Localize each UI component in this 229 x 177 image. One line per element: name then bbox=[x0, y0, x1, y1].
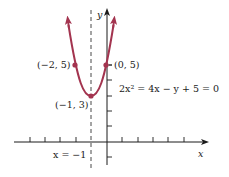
x-axis-label: x bbox=[198, 148, 204, 159]
y-axis-ticks bbox=[107, 65, 112, 157]
point-0-5-label: (0, 5) bbox=[114, 59, 140, 70]
point-neg2-5-label: (−2, 5) bbox=[37, 59, 71, 70]
y-axis-label: y bbox=[96, 9, 103, 20]
vertex-point bbox=[88, 93, 93, 98]
curve-arrow-left-icon bbox=[68, 20, 69, 28]
curve-arrow-right-icon bbox=[113, 20, 114, 28]
point-neg2-5 bbox=[72, 62, 77, 67]
vertex-label: (−1, 3) bbox=[55, 99, 89, 110]
parabola-graph: (−2, 5) (0, 5) (−1, 3) 2x² = 4x − y + 5 … bbox=[0, 0, 229, 177]
equation-label: 2x² = 4x − y + 5 = 0 bbox=[119, 83, 219, 94]
axis-of-symmetry-label: x = −1 bbox=[53, 149, 86, 160]
point-0-5 bbox=[103, 62, 108, 67]
